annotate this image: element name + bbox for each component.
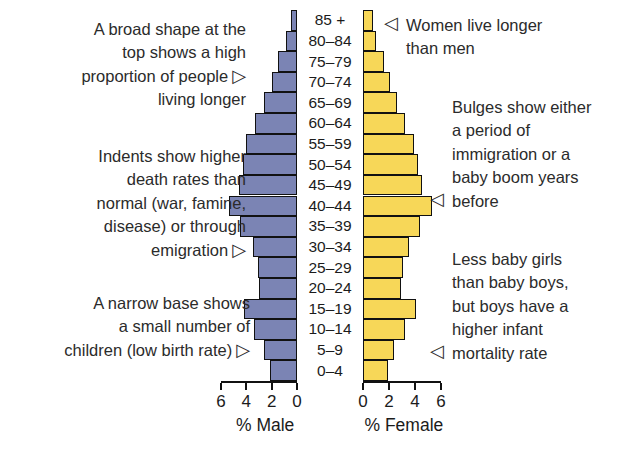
- annotation-line: a small number of: [64, 315, 250, 338]
- bar-female-30-34: [363, 237, 409, 258]
- bar-male-75-79: [278, 51, 297, 72]
- annotation-line: A broad shape at the: [81, 18, 246, 41]
- bar-female-10-14: [363, 319, 405, 340]
- axis-title-female: % Female: [365, 417, 444, 435]
- axis-tick-female: [362, 383, 364, 390]
- bar-female-85: [363, 10, 373, 31]
- age-label: 60–64: [297, 115, 363, 131]
- age-label: 0–4: [297, 363, 363, 379]
- bar-female-15-19: [363, 299, 416, 320]
- annotation-line: normal (war, famine,: [97, 192, 246, 215]
- annotation-baby-girls: Less baby girlsthan baby boys,but boys h…: [452, 248, 569, 365]
- annotation-women-live-longer: Women live longer◁than men: [406, 14, 542, 61]
- annotation-line: but boys have a: [452, 295, 569, 318]
- population-pyramid-infographic: 0–45–910–1415–1920–2425–2930–3435–3940–4…: [0, 0, 639, 451]
- pointer-triangle-icon: ▷: [232, 239, 246, 260]
- age-label: 30–34: [297, 239, 363, 255]
- annotation-line: higher infant: [452, 318, 569, 341]
- age-label: 35–39: [297, 218, 363, 234]
- pointer-triangle-icon: ◁: [384, 14, 398, 32]
- bar-male-5-9: [264, 340, 297, 361]
- age-label: 85 +: [297, 12, 363, 28]
- bar-male-10-14: [254, 319, 297, 340]
- annotation-narrow-base: A narrow base showsa small number ofchil…: [64, 292, 250, 362]
- bar-female-55-59: [363, 134, 414, 155]
- bar-female-75-79: [363, 51, 384, 72]
- age-label: 70–74: [297, 74, 363, 90]
- bar-male-30-34: [253, 237, 297, 258]
- age-label: 45–49: [297, 177, 363, 193]
- annotation-line: Bulges show either: [452, 96, 591, 119]
- annotation-line: children (low birth rate)▷: [64, 339, 250, 362]
- age-label: 5–9: [297, 342, 363, 358]
- pointer-triangle-icon: ▷: [232, 65, 246, 86]
- bar-male-60-64: [255, 113, 297, 134]
- bar-female-40-44: [363, 196, 432, 217]
- annotation-line: proportion of people▷: [81, 65, 246, 88]
- annotation-line: A narrow base shows: [64, 292, 250, 315]
- annotation-indents: Indents show higherdeath rates thannorma…: [97, 145, 246, 262]
- annotation-line: baby boom years: [452, 166, 591, 189]
- axis-tick-female: [440, 383, 442, 390]
- age-label: 10–14: [297, 321, 363, 337]
- axis-tick-label-male: 0: [282, 393, 312, 410]
- annotation-broad-top: A broad shape at thetop shows a highprop…: [81, 18, 246, 112]
- annotation-line: immigration or a: [452, 143, 591, 166]
- age-label: 15–19: [297, 301, 363, 317]
- axis-line-female: [363, 381, 441, 383]
- axis-tick-male: [245, 383, 247, 390]
- annotation-line: Less baby girls: [452, 248, 569, 271]
- bar-female-5-9: [363, 340, 394, 361]
- age-label: 55–59: [297, 136, 363, 152]
- bar-female-20-24: [363, 278, 401, 299]
- bar-male-45-49: [239, 175, 297, 196]
- bar-male-55-59: [246, 134, 297, 155]
- bar-female-70-74: [363, 72, 390, 93]
- annotation-line: living longer: [81, 88, 246, 111]
- age-label: 65–69: [297, 95, 363, 111]
- axis-line-male: [221, 381, 297, 383]
- bar-male-50-54: [243, 154, 297, 175]
- bar-female-25-29: [363, 257, 403, 278]
- age-label: 75–79: [297, 54, 363, 70]
- annotation-line: Indents show higher: [97, 145, 246, 168]
- bar-female-35-39: [363, 216, 420, 237]
- annotation-line: than baby boys,: [452, 271, 569, 294]
- annotation-line: death rates than: [97, 168, 246, 191]
- axis-title-male: % Male: [236, 417, 294, 435]
- bar-female-80-84: [363, 31, 376, 52]
- bar-male-70-74: [272, 72, 297, 93]
- annotation-bulges: Bulges show eithera period ofimmigration…: [452, 96, 591, 213]
- axis-tick-label-female: 6: [426, 393, 456, 410]
- bar-male-25-29: [258, 257, 297, 278]
- age-label: 80–84: [297, 33, 363, 49]
- bar-female-65-69: [363, 92, 397, 113]
- bar-male-20-24: [259, 278, 297, 299]
- bar-female-45-49: [363, 175, 422, 196]
- axis-tick-male: [220, 383, 222, 390]
- bar-female-50-54: [363, 154, 418, 175]
- annotation-line: emigration▷: [97, 239, 246, 262]
- pointer-triangle-icon: ▷: [236, 339, 250, 360]
- age-label: 25–29: [297, 260, 363, 276]
- age-label: 20–24: [297, 280, 363, 296]
- annotation-line: Women live longer◁: [406, 14, 542, 37]
- bar-male-35-39: [240, 216, 297, 237]
- axis-tick-female: [388, 383, 390, 390]
- bar-female-60-64: [363, 113, 405, 134]
- axis-tick-male: [296, 383, 298, 390]
- pointer-triangle-icon: ◁: [430, 190, 444, 208]
- pointer-triangle-icon: ◁: [430, 342, 444, 360]
- age-label: 40–44: [297, 198, 363, 214]
- annotation-line: disease) or through: [97, 215, 246, 238]
- annotation-line: mortality rate◁: [452, 342, 569, 365]
- annotation-line: top shows a high: [81, 41, 246, 64]
- annotation-line: a period of: [452, 119, 591, 142]
- axis-tick-female: [414, 383, 416, 390]
- bar-male-0-4: [270, 360, 297, 381]
- axis-tick-male: [271, 383, 273, 390]
- age-label: 50–54: [297, 157, 363, 173]
- bar-male-65-69: [264, 92, 297, 113]
- annotation-line: than men: [406, 37, 542, 60]
- bar-female-0-4: [363, 360, 388, 381]
